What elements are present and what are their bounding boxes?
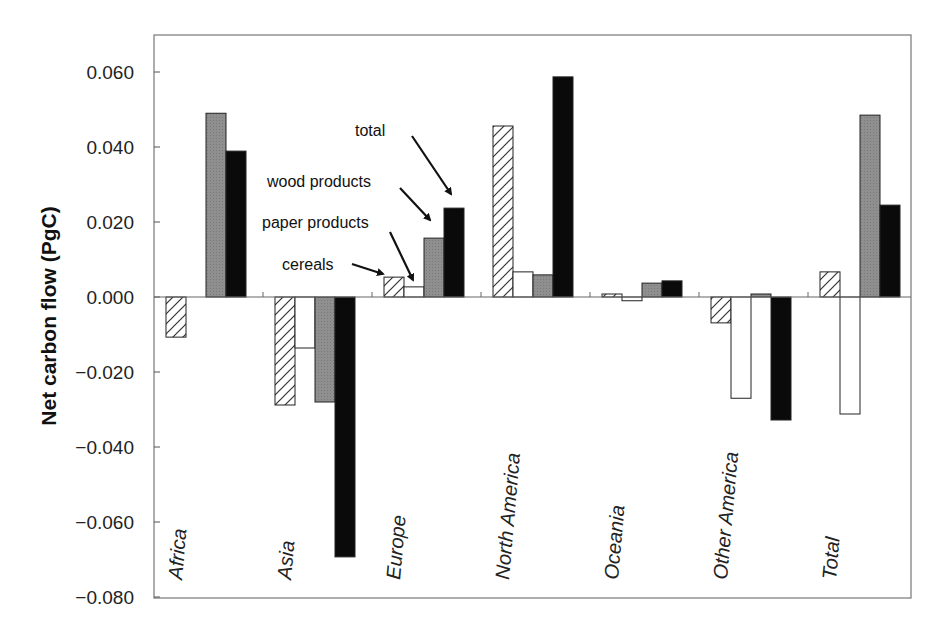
annotation-label: total — [355, 122, 385, 139]
bar-cereals — [493, 126, 513, 297]
bar-paper-products — [404, 287, 424, 297]
bar-wood-products — [424, 238, 444, 297]
bar-wood-products — [860, 115, 880, 297]
category-label: Oceania — [600, 504, 628, 580]
bar-paper-products — [840, 297, 860, 414]
y-tick-label: −0.080 — [75, 587, 134, 608]
y-axis: −0.080−0.060−0.040−0.0200.0000.0200.0400… — [75, 62, 160, 608]
bar-cereals — [384, 277, 404, 297]
plot-frame — [154, 35, 911, 598]
y-tick-label: 0.020 — [86, 212, 134, 233]
bar-total — [771, 297, 791, 420]
bar-total — [444, 208, 464, 297]
bar-cereals — [275, 297, 295, 405]
bar-cereals — [166, 297, 186, 337]
bar-total — [335, 297, 355, 557]
bar-group-asia — [275, 297, 355, 557]
arrow-icon — [412, 136, 451, 194]
bar-wood-products — [642, 283, 662, 297]
bar-paper-products — [513, 272, 533, 297]
bar-paper-products — [731, 297, 751, 398]
bar-group-africa — [166, 113, 246, 337]
bar-total — [226, 151, 246, 297]
y-tick-label: 0.000 — [86, 287, 134, 308]
bar-total — [553, 77, 573, 297]
bar-group-total — [820, 115, 900, 414]
category-labels: AfricaAsiaEuropeNorth AmericaOceaniaOthe… — [164, 451, 844, 582]
category-label: Total — [818, 535, 844, 580]
arrow-icon — [400, 188, 430, 220]
category-label: Asia — [273, 540, 298, 582]
bar-chart: −0.080−0.060−0.040−0.0200.0000.0200.0400… — [0, 0, 951, 640]
y-tick-label: 0.060 — [86, 62, 134, 83]
bar-wood-products — [533, 275, 553, 297]
bar-cereals — [711, 297, 731, 323]
y-tick-label: −0.040 — [75, 437, 134, 458]
annotation-label: cereals — [282, 256, 334, 273]
bar-wood-products — [206, 113, 226, 297]
bar-cereals — [820, 272, 840, 297]
arrow-icon — [390, 232, 413, 280]
bar-total — [662, 281, 682, 297]
bar-group-europe — [384, 208, 464, 297]
bar-group-other-america — [711, 294, 791, 420]
annotation-label: paper products — [262, 214, 369, 231]
category-label: Europe — [382, 514, 410, 580]
annotation-label: wood products — [266, 173, 371, 190]
y-tick-label: −0.020 — [75, 362, 134, 383]
y-axis-label: Net carbon flow (PgC) — [37, 206, 60, 425]
y-tick-label: 0.040 — [86, 137, 134, 158]
series-annotations: totalwood productspaper productscereals — [262, 122, 451, 280]
bar-group-oceania — [602, 281, 682, 301]
bar-group-north-america — [493, 77, 573, 297]
bars — [166, 77, 900, 557]
category-label: Other America — [709, 451, 742, 581]
category-label: Africa — [164, 528, 190, 582]
plot-border — [154, 35, 911, 598]
arrow-icon — [352, 264, 383, 274]
category-label: North America — [491, 452, 524, 581]
y-tick-label: −0.060 — [75, 512, 134, 533]
bar-wood-products — [315, 297, 335, 402]
bar-total — [880, 205, 900, 297]
bar-paper-products — [295, 297, 315, 348]
